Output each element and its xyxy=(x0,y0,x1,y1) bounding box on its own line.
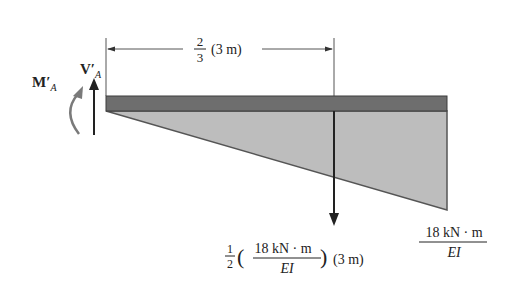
conjugate-beam-diagram: 2 3 (3 m) V′A M′A 1 2 ( 18 kN · m EI ) (… xyxy=(0,0,512,296)
peak-num: 18 kN · m xyxy=(425,225,482,240)
shear-reaction-arrow xyxy=(89,78,99,135)
dimension-group: 2 3 (3 m) xyxy=(106,34,334,96)
shear-label: V′A xyxy=(80,61,102,80)
resultant-moment-den: EI xyxy=(279,261,295,276)
peak-moment-label: 18 kN · m EI xyxy=(419,225,487,260)
resultant-length: (3 m) xyxy=(333,252,364,268)
moment-label: M′A xyxy=(32,74,57,93)
resultant-close-paren: ) xyxy=(320,244,327,269)
resultant-open-paren: ( xyxy=(237,244,244,269)
resultant-coef-num: 1 xyxy=(227,242,233,256)
peak-den: EI xyxy=(446,245,462,260)
moment-triangle xyxy=(106,111,447,210)
resultant-coef-den: 2 xyxy=(227,257,233,271)
resultant-moment-num: 18 kN · m xyxy=(254,241,311,256)
dimension-arrowhead-left xyxy=(107,47,115,52)
moment-reaction-arrow xyxy=(70,86,83,134)
resultant-label: 1 2 ( 18 kN · m EI ) (3 m) xyxy=(225,241,364,276)
resultant-arrowhead xyxy=(329,213,339,226)
dimension-length: (3 m) xyxy=(211,42,242,58)
dimension-arrowhead-right xyxy=(325,47,333,52)
dimension-fraction-num: 2 xyxy=(197,34,204,49)
beam xyxy=(106,96,447,111)
dimension-fraction-den: 3 xyxy=(197,50,204,65)
